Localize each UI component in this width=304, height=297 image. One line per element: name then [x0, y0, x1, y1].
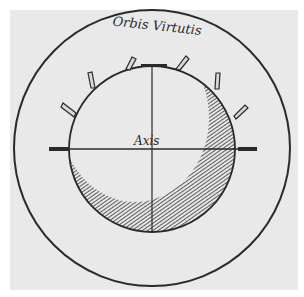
orbis-virtutis-label: Orbis Virtutis: [112, 14, 203, 38]
tick-left-2: [88, 72, 95, 88]
axis-end-left: [49, 147, 69, 151]
tick-right-1: [176, 56, 189, 70]
tick-right-3: [234, 105, 248, 119]
sphere-shading: [60, 60, 250, 240]
axis-end-right: [238, 147, 257, 151]
tick-left-3: [61, 103, 76, 117]
tick-right-2: [215, 73, 220, 89]
orbis-virtutis-diagram: Orbis Virtutis Axis: [0, 0, 304, 297]
top-bar-tick: [141, 64, 167, 67]
axis-label: Axis: [133, 134, 159, 148]
